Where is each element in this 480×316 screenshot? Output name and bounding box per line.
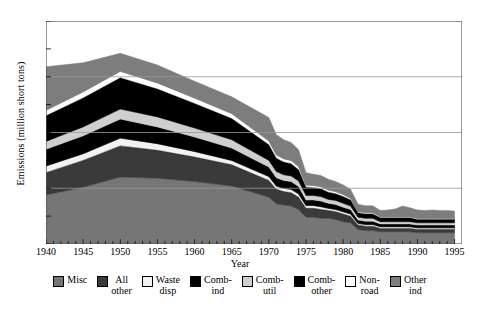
legend-swatch bbox=[53, 276, 64, 287]
legend-swatch bbox=[142, 276, 153, 287]
legend-label: Misc bbox=[67, 274, 87, 285]
legend-swatch bbox=[294, 276, 305, 287]
legend-label: Allother bbox=[111, 274, 132, 296]
y-axis-title: Emissions (million short tons) bbox=[15, 34, 26, 214]
x-tick-label: 1970 bbox=[259, 246, 279, 257]
legend-item: Wastedisp bbox=[142, 274, 180, 296]
x-tick-label: 1985 bbox=[370, 246, 390, 257]
x-axis-title: Year bbox=[0, 258, 480, 269]
legend-swatch bbox=[390, 276, 401, 287]
stacked-area-chart bbox=[46, 21, 462, 244]
legend-item: Comb-ind bbox=[190, 274, 232, 296]
x-tick-label: 1975 bbox=[296, 246, 316, 257]
legend-label: Comb-other bbox=[308, 274, 336, 296]
legend-item: Misc bbox=[53, 274, 87, 287]
legend-item: Otherind bbox=[390, 274, 427, 296]
x-tick-label: 1995 bbox=[445, 246, 465, 257]
legend-item: Comb-util bbox=[242, 274, 284, 296]
plot-area bbox=[46, 21, 462, 244]
x-tick-label: 1990 bbox=[407, 246, 427, 257]
legend-label: Wastedisp bbox=[156, 274, 180, 296]
x-tick-label: 1940 bbox=[36, 246, 56, 257]
legend-label: Otherind bbox=[404, 274, 427, 296]
legend-swatch bbox=[190, 276, 201, 287]
legend-label: Comb-ind bbox=[204, 274, 232, 296]
legend-label: Comb-util bbox=[256, 274, 284, 296]
x-tick-label: 1945 bbox=[73, 246, 93, 257]
x-tick-label: 1980 bbox=[333, 246, 353, 257]
x-tick-label: 1960 bbox=[185, 246, 205, 257]
legend-swatch bbox=[345, 276, 356, 287]
x-tick-label: 1955 bbox=[147, 246, 167, 257]
legend-item: Allother bbox=[97, 274, 132, 296]
legend-label: Non-road bbox=[359, 274, 380, 296]
legend-swatch bbox=[242, 276, 253, 287]
legend-swatch bbox=[97, 276, 108, 287]
legend-item: Comb-other bbox=[294, 274, 336, 296]
legend-item: Non-road bbox=[345, 274, 380, 296]
x-tick-label: 1950 bbox=[110, 246, 130, 257]
chart-legend: MiscAllotherWastedispComb-indComb-utilCo… bbox=[0, 274, 480, 296]
x-tick-label: 1965 bbox=[222, 246, 242, 257]
